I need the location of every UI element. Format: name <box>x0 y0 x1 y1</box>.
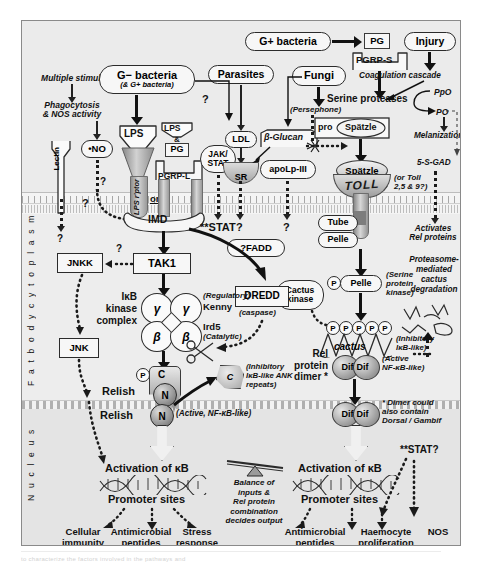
dotted-apolp-down <box>286 181 289 215</box>
crossed-dotted-arrow <box>305 139 351 153</box>
tak1-node[interactable]: TAK1 <box>133 253 191 274</box>
arrow-parasites-to-ldl <box>240 85 242 127</box>
jnkk-node[interactable]: JNKK <box>57 253 103 273</box>
dif-dif-dimer-nuclear[interactable]: Dif Dif <box>332 402 378 425</box>
figure-caption: to characterize the factors involved in … <box>21 556 459 562</box>
output-cellular-immunity: Cellular immunity <box>58 526 108 546</box>
lps-label: LPS <box>124 128 143 139</box>
figure-page: F a t b o d y c y t o p l a s m N u c l … <box>0 0 481 574</box>
dif-left: Dif <box>342 362 354 372</box>
relish-active-label: Relish <box>100 409 133 421</box>
jnkk-question: ? <box>116 243 122 254</box>
lectin-question: ? <box>57 233 63 244</box>
arrowhead <box>57 226 65 232</box>
pelle-node-membrane[interactable]: Pelle <box>318 232 358 248</box>
dif-active-note: (Active NF-κB-like) <box>382 355 424 373</box>
pathway-figure: F a t b o d y c y t o p l a s m N u c l … <box>21 20 461 546</box>
stat-question-label: **STAT? <box>400 444 439 455</box>
phagocytosis-nos-label: Phagocytosis & NOS activity <box>28 101 116 118</box>
apolp-iii-node[interactable]: apoLp-III <box>260 160 316 179</box>
imd-label: IMD <box>148 213 167 225</box>
no-question: ? <box>100 176 106 187</box>
arrowhead-up <box>422 332 434 340</box>
toll-note: (or Toll 2,5 & 9?) <box>394 173 427 191</box>
arrowhead <box>355 313 367 321</box>
dotted-ssgad-down <box>434 171 437 219</box>
ppo-label: PpO <box>434 87 451 97</box>
dif-left-2: Dif <box>342 409 354 419</box>
dif-right-2: Dif <box>357 409 369 419</box>
imd-question-left: ? <box>82 197 89 209</box>
lps-receptor-funnel-icon <box>121 147 155 179</box>
dif-right: Dif <box>357 362 369 372</box>
ird5-label: Ird5 <box>203 321 220 332</box>
pg-box-toll[interactable]: PG <box>364 33 390 49</box>
pg-box-imd[interactable]: PG <box>165 143 189 157</box>
po-to-ssgad-line <box>445 105 461 157</box>
cactus-label: cactus <box>334 341 366 352</box>
persephone-label: (Persephone) <box>290 105 341 114</box>
relish-label: Relish <box>102 385 135 397</box>
arrowhead <box>283 214 291 220</box>
lectin-label: Lectin <box>52 147 61 171</box>
dna-helix-left <box>98 475 208 495</box>
dimer-label: Dif Dif <box>332 355 378 378</box>
arrowhead <box>424 63 436 71</box>
relish-C-label: C <box>158 369 165 380</box>
dotted-jak-down <box>217 175 220 215</box>
g-plus-bacteria-node[interactable]: G+ bacteria <box>245 32 331 51</box>
relish-to-ank-arrow <box>170 373 220 407</box>
cytoplasm-zone-label: F a t b o d y c y t o p l a s m <box>26 226 36 386</box>
pelle-node-cyto[interactable]: Pelle <box>340 275 382 292</box>
imd-to-dredd-curve <box>187 227 277 287</box>
arrow-dimer-down <box>353 379 356 399</box>
dif-dif-dimer[interactable]: Dif Dif <box>332 355 378 378</box>
arrow-toll-to-pelle <box>359 249 362 271</box>
relish-N-active: N <box>150 404 174 428</box>
g-minus-bacteria-node[interactable]: G− bacteria (& G+ bacteria) <box>99 65 195 94</box>
output-antimicrobial-peptides-right: Antimicrobial peptides <box>278 526 352 546</box>
promoter-sites-left: Promoter sites <box>108 493 185 505</box>
dimer-footnote: * Dimer could also contain Dorsal / Gamb… <box>382 398 441 426</box>
stat-dotted-arrows <box>358 455 420 523</box>
activates-rel-label: Activates Rel proteins <box>400 224 461 243</box>
ss-gad-label: 5-S-GAD <box>417 158 451 167</box>
proteasome-label: Proteasome- mediated cactus degradation <box>394 255 461 294</box>
arrow-gminus-to-lps <box>135 95 138 119</box>
injury-node[interactable]: Injury <box>404 32 456 51</box>
apolp-question: ? <box>283 221 290 233</box>
arrowhead <box>354 36 362 48</box>
relish-active-note: (Active, NF-κB-like) <box>176 409 251 418</box>
pgrp-s-label: PGRP-S <box>356 54 392 65</box>
no-node[interactable]: •NO <box>81 140 113 158</box>
pro-spatzle-label: Spätzle <box>345 122 377 132</box>
beta-glucan-label: β-Glucan <box>264 132 303 142</box>
arrowhead <box>236 214 244 220</box>
nucleus-zone-label: N u c l e u s <box>26 421 36 501</box>
activation-kb-left: Activation of κB <box>105 462 189 474</box>
arrow-to-no <box>96 121 98 135</box>
ank-note: (Inhibitory IκB-like ANK repeats) <box>246 362 293 389</box>
dotted-lectin-down <box>60 199 63 227</box>
ikk-complex-label: IκB kinase complex <box>91 291 137 328</box>
kenny-regulatory: (Regulatory) <box>203 291 250 300</box>
output-nos: NOS <box>420 526 456 537</box>
dotted-cactus-to-fragments <box>406 343 432 357</box>
arrow-pelle-to-cactus <box>359 293 362 315</box>
jnk-node[interactable]: JNK <box>59 338 99 358</box>
caption-divider <box>21 551 441 552</box>
dotted-tak1-to-jnkk <box>102 257 134 271</box>
fungi-to-glucan-line <box>280 75 306 131</box>
dredd-sub: (caspase) <box>239 308 276 317</box>
output-stress-response: Stress response <box>174 526 220 546</box>
dimer-label-2: Dif Dif <box>332 402 378 425</box>
lps-amp-label: LPS <box>164 123 181 133</box>
balance-note: Balance of inputs & Rel protein combinat… <box>218 478 290 526</box>
pro-label: pro <box>318 122 333 132</box>
tube-node[interactable]: Tube <box>318 215 358 231</box>
output-haemocyte-proliferation: Haemocyte proliferation <box>350 526 422 546</box>
arrow-gplus-to-pg <box>332 40 356 43</box>
dotted-no-down <box>96 160 99 192</box>
kenny-label: Kenny <box>203 301 232 312</box>
arrow-stimuli-to-phago <box>71 84 73 98</box>
